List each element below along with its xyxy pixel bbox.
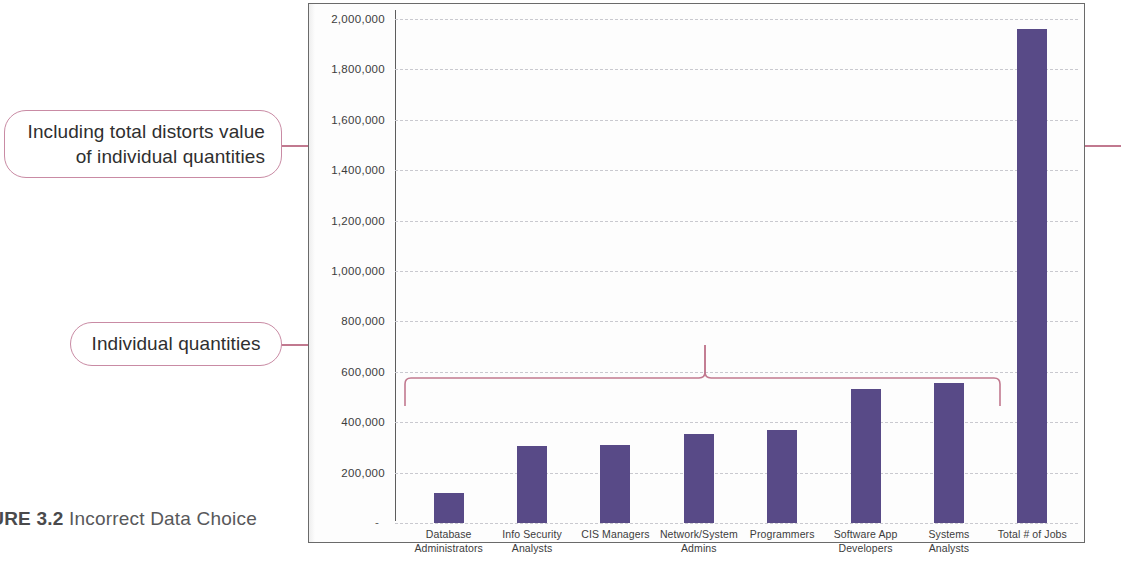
y-axis-tick-label: 1,000,000 xyxy=(309,265,385,277)
bar xyxy=(434,493,464,523)
x-axis-category-label-line: Developers xyxy=(820,542,911,556)
x-axis-category-label-line: Analysts xyxy=(903,542,994,556)
gridline xyxy=(395,473,1078,474)
bar xyxy=(600,445,630,523)
x-axis-category-label: SystemsAnalysts xyxy=(903,528,994,555)
x-axis-category-label-line: Admins xyxy=(653,542,744,556)
bar xyxy=(684,434,714,523)
x-axis-category-label-line: Administrators xyxy=(403,542,494,556)
gridline xyxy=(395,422,1078,423)
x-axis-category-label-line: Systems xyxy=(903,528,994,542)
gridline xyxy=(395,170,1078,171)
bar xyxy=(517,446,547,523)
y-axis-tick-label: 800,000 xyxy=(309,315,385,327)
callout-total-line1: Including total distorts value xyxy=(21,119,265,144)
x-axis-category-label: Programmers xyxy=(737,528,828,542)
y-axis-tick-label: 200,000 xyxy=(309,467,385,479)
y-axis-tick-label: 1,800,000 xyxy=(309,63,385,75)
y-axis-tick-label: 600,000 xyxy=(309,366,385,378)
chart-plot-area: - 2,000,0001,800,0001,600,0001,400,0001,… xyxy=(309,4,1084,542)
gridline xyxy=(395,120,1078,121)
gridline xyxy=(395,372,1078,373)
gridline xyxy=(395,221,1078,222)
baseline-gridline xyxy=(395,523,1078,524)
x-axis-category-label-line: Programmers xyxy=(737,528,828,542)
gridline xyxy=(395,19,1078,20)
x-axis-category-label-line: Software App xyxy=(820,528,911,542)
callout-individual-quantities: Individual quantities xyxy=(70,322,282,366)
bar xyxy=(934,383,964,523)
y-axis-tick-label: 400,000 xyxy=(309,416,385,428)
y-axis-zero-tick: - xyxy=(375,516,379,528)
x-axis-category-label-line: Total # of Jobs xyxy=(987,528,1078,542)
x-axis-category-label: CIS Managers xyxy=(570,528,661,542)
x-axis-category-label: Network/SystemAdmins xyxy=(653,528,744,555)
y-axis-tick-label: 1,200,000 xyxy=(309,215,385,227)
gridline xyxy=(395,271,1078,272)
y-axis-tick-label: 2,000,000 xyxy=(309,13,385,25)
x-axis-category-label: Software AppDevelopers xyxy=(820,528,911,555)
chart-frame: - 2,000,0001,800,0001,600,0001,400,0001,… xyxy=(308,3,1085,543)
figure-caption-text: Incorrect Data Choice xyxy=(63,508,256,529)
bar xyxy=(851,389,881,523)
x-axis-category-label: DatabaseAdministrators xyxy=(403,528,494,555)
x-axis-category-label: Info SecurityAnalysts xyxy=(486,528,577,555)
x-axis-category-label-line: Info Security xyxy=(486,528,577,542)
figure-caption-label: FIGURE 3.2 xyxy=(0,508,63,529)
x-axis-category-label-line: CIS Managers xyxy=(570,528,661,542)
y-axis-line xyxy=(395,10,396,521)
x-axis-category-label: Total # of Jobs xyxy=(987,528,1078,542)
x-axis-category-label-line: Network/System xyxy=(653,528,744,542)
gridline xyxy=(395,69,1078,70)
gridline xyxy=(395,321,1078,322)
y-axis-tick-label: 1,400,000 xyxy=(309,164,385,176)
x-axis-category-label-line: Analysts xyxy=(486,542,577,556)
callout-total-distorts: Including total distorts value of indivi… xyxy=(4,110,282,178)
callout-total-line2: of individual quantities xyxy=(21,144,265,169)
y-axis-tick-label: 1,600,000 xyxy=(309,114,385,126)
callout-individual-label: Individual quantities xyxy=(92,331,261,356)
figure-caption: FIGURE 3.2 Incorrect Data Choice xyxy=(0,505,258,533)
x-axis-category-label-line: Database xyxy=(403,528,494,542)
bar xyxy=(767,430,797,523)
bar xyxy=(1017,29,1047,523)
